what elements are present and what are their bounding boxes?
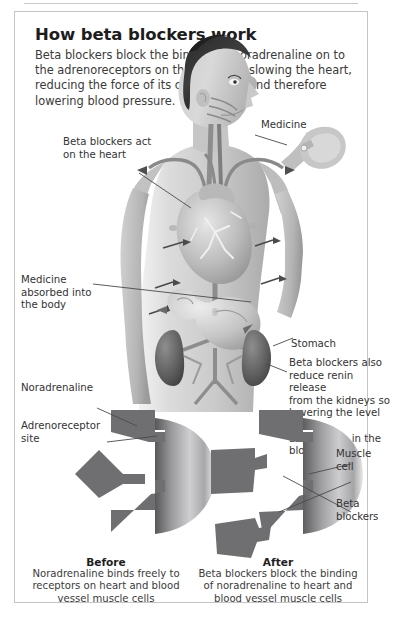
before-caption-body: Noradrenaline binds freely to receptors … — [21, 568, 191, 605]
label-beta-blockers: Beta blockers — [336, 498, 378, 523]
label-adrenoreceptor-site: Adrenoreceptor site — [21, 420, 100, 445]
label-muscle-cell: Muscle cell — [336, 448, 371, 473]
label-noradrenaline: Noradrenaline — [21, 382, 93, 395]
before-caption: Before Noradrenaline binds freely to rec… — [21, 556, 191, 605]
after-caption: After Beta blockers block the binding of… — [192, 556, 364, 605]
receptor-diagrams — [15, 12, 367, 604]
infographic-panel: How beta blockers work Beta blockers blo… — [14, 11, 368, 603]
top-divider — [24, 3, 358, 4]
after-caption-title: After — [192, 556, 364, 568]
noradrenaline-free — [75, 450, 145, 498]
noradrenaline-displaced-upper — [211, 448, 267, 494]
after-caption-body: Beta blockers block the binding of norad… — [192, 568, 364, 605]
after-diagram — [211, 410, 363, 558]
before-caption-title: Before — [21, 556, 191, 568]
